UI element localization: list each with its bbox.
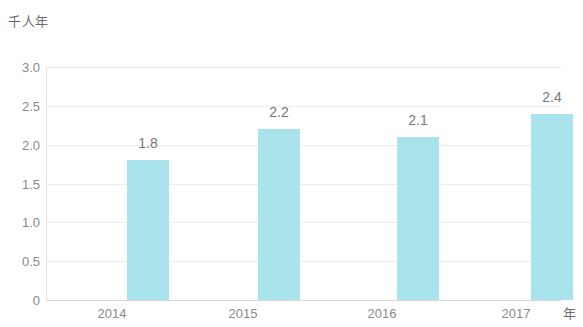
bars-layer: 1.8 2.2 2.1 2.4: [46, 67, 560, 300]
y-tick-label: 1.5: [2, 177, 40, 190]
bar-value-label: 2.1: [408, 113, 427, 127]
y-axis-unit-label: 千人年: [8, 14, 49, 30]
bar-group: 2.4: [496, 67, 583, 300]
y-tick-label: 3.0: [2, 61, 40, 74]
bar-value-label: 1.8: [138, 136, 157, 150]
bar-group: 2.1: [362, 67, 474, 300]
x-tick-label: 2017: [502, 305, 531, 323]
x-tick-label: 2015: [229, 305, 258, 323]
y-tick-label: 0: [2, 294, 40, 307]
x-tick-label: 2014: [98, 305, 127, 323]
y-tick-label: 1.0: [2, 216, 40, 229]
bar[interactable]: [397, 137, 439, 300]
bar-group: 1.8: [92, 67, 204, 300]
x-axis-tick-labels: 2014 2015 2016 2017: [46, 305, 560, 327]
y-tick-label: 2.5: [2, 99, 40, 112]
x-axis-unit-label: 年: [563, 305, 576, 323]
x-tick-label: 2016: [368, 305, 397, 323]
y-axis-tick-labels: 3.0 2.5 2.0 1.5 1.0 0.5 0: [0, 67, 40, 300]
bar-value-label: 2.4: [542, 90, 561, 104]
bar[interactable]: [127, 160, 169, 300]
bar-chart: 千人年 3.0 2.5 2.0 1.5 1.0 0.5 0 1.8 2.2 2.…: [0, 0, 583, 327]
y-tick-label: 0.5: [2, 255, 40, 268]
bar[interactable]: [258, 129, 300, 300]
y-tick-label: 2.0: [2, 138, 40, 151]
bar-group: 2.2: [223, 67, 335, 300]
bar[interactable]: [531, 114, 573, 300]
bar-value-label: 2.2: [269, 105, 288, 119]
